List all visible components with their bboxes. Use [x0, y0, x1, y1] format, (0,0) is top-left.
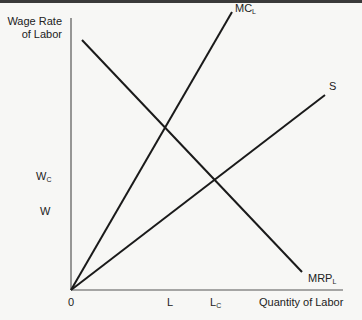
x-tick-origin: 0 — [68, 296, 74, 309]
supply-curve — [71, 95, 325, 290]
mc-label: MCL — [235, 2, 256, 18]
x-tick-lc: LC — [210, 296, 221, 312]
x-tick-l: L — [167, 296, 173, 309]
y-tick-wc: WC — [36, 170, 51, 186]
y-tick-w: W — [40, 205, 50, 218]
s-label: S — [329, 80, 336, 93]
mrp-label: MRPL — [308, 272, 336, 288]
y-axis-label: Wage Rate of Labor — [7, 15, 62, 41]
mrp-curve — [82, 40, 302, 272]
x-axis-label: Quantity of Labor — [259, 296, 343, 309]
